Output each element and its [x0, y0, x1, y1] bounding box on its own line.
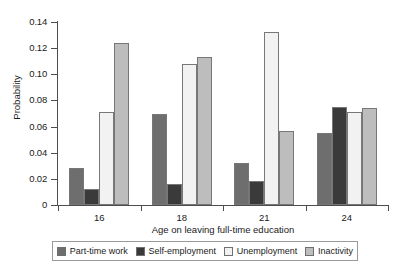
y-axis-tick [51, 153, 57, 154]
bar-unemployment-18 [182, 64, 197, 205]
x-axis-tick [306, 206, 307, 211]
bar-unemployment-21 [264, 32, 279, 205]
bar-inactivity-16 [114, 43, 129, 205]
legend-entry-inactivity[interactable]: Inactivity [305, 246, 353, 256]
bar-self-employment-16 [84, 189, 99, 205]
bar-part-time-work-18 [152, 114, 167, 206]
legend-swatch-icon [57, 247, 66, 256]
x-axis-tick [141, 206, 142, 211]
bar-self-employment-21 [249, 181, 264, 205]
legend-label: Inactivity [318, 246, 353, 256]
bar-self-employment-24 [332, 107, 347, 205]
y-axis-tick-label: 0.02 [3, 173, 47, 184]
y-axis-tick-label: 0.14 [3, 16, 47, 27]
bar-part-time-work-16 [69, 168, 84, 205]
y-axis-tick-label: 0.08 [3, 94, 47, 105]
y-axis-tick-label: 0.04 [3, 147, 47, 158]
y-axis-tick [51, 48, 57, 49]
y-axis-tick [51, 205, 57, 206]
x-axis-tick-label: 24 [327, 212, 367, 223]
legend-swatch-icon [305, 247, 314, 256]
legend-swatch-icon [224, 247, 233, 256]
bar-part-time-work-21 [234, 163, 249, 205]
x-axis-title: Age on leaving full-time education [57, 224, 389, 235]
bar-inactivity-18 [197, 57, 212, 205]
x-axis-tick [223, 206, 224, 211]
x-axis-tick [58, 206, 59, 211]
y-axis-tick [51, 100, 57, 101]
y-axis-tick [51, 179, 57, 180]
y-axis-tick-label: 0.10 [3, 68, 47, 79]
x-axis-tick-label: 18 [162, 212, 202, 223]
legend-swatch-icon [136, 247, 145, 256]
bar-unemployment-24 [347, 112, 362, 205]
y-axis-tick-label: 0.06 [3, 121, 47, 132]
y-axis-tick-label: 0 [3, 199, 47, 210]
bar-inactivity-21 [279, 131, 294, 206]
y-axis-tick-label: 0.12 [3, 42, 47, 53]
x-axis-tick [388, 206, 389, 211]
bar-unemployment-16 [99, 112, 114, 205]
legend-entry-unemployment[interactable]: Unemployment [224, 246, 298, 256]
x-axis-tick-label: 21 [244, 212, 284, 223]
x-axis-tick-label: 16 [79, 212, 119, 223]
y-axis-tick [51, 127, 57, 128]
legend-label: Part-time work [70, 246, 128, 256]
y-axis-tick [51, 74, 57, 75]
bars-layer [58, 22, 388, 205]
chart-page: Probability 00.020.040.060.080.100.120.1… [0, 0, 410, 268]
legend-label: Self-employment [149, 246, 217, 256]
legend-entry-part-time-work[interactable]: Part-time work [57, 246, 128, 256]
legend-entry-self-employment[interactable]: Self-employment [136, 246, 217, 256]
chart-legend: Part-time workSelf-employmentUnemploymen… [52, 241, 358, 261]
legend-label: Unemployment [237, 246, 298, 256]
bar-inactivity-24 [362, 108, 377, 205]
bar-part-time-work-24 [317, 133, 332, 205]
bar-self-employment-18 [167, 184, 182, 205]
y-axis-tick [51, 22, 57, 23]
